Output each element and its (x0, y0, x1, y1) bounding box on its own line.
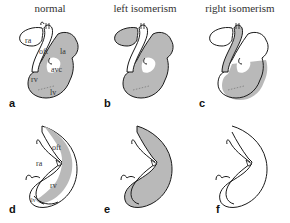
label-rv: rv (50, 181, 57, 190)
label-oft: oft (52, 143, 62, 152)
label-lv: lv (50, 88, 56, 97)
panel-letter-a: a (9, 97, 15, 109)
panel-f-heart (216, 126, 267, 207)
label-lv: lv (31, 197, 36, 203)
panel-letter-c: c (199, 97, 205, 109)
heart-diagram-figure: ra oft la avc rv lv (0, 0, 290, 223)
label-ra: ra (25, 36, 32, 45)
panel-letter-d: d (9, 203, 16, 215)
panel-d-heart: oft ra rv lv (26, 126, 77, 207)
label-oft: oft (39, 47, 49, 56)
panel-b-heart (115, 23, 173, 98)
panel-c-heart (210, 23, 268, 100)
panel-letter-e: e (104, 203, 110, 215)
label-rv: rv (31, 75, 38, 84)
panel-e-heart (121, 126, 172, 207)
label-avc: avc (51, 65, 63, 74)
panel-a-heart: ra oft la avc rv lv (20, 22, 78, 98)
panel-letter-f: f (216, 203, 220, 215)
label-la: la (60, 47, 66, 56)
panel-letter-b: b (104, 97, 111, 109)
label-ra: ra (36, 159, 43, 168)
